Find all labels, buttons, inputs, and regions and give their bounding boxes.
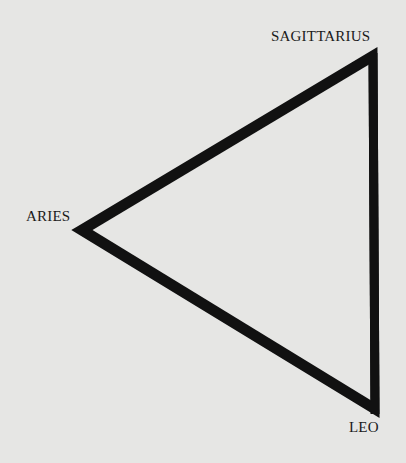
triangle-outline [80,55,375,410]
vertex-label-aries: ARIES [26,208,70,225]
vertex-label-sagittarius: SAGITTARIUS [271,28,370,45]
vertex-label-leo: LEO [349,419,379,436]
trine-diagram [0,0,406,463]
